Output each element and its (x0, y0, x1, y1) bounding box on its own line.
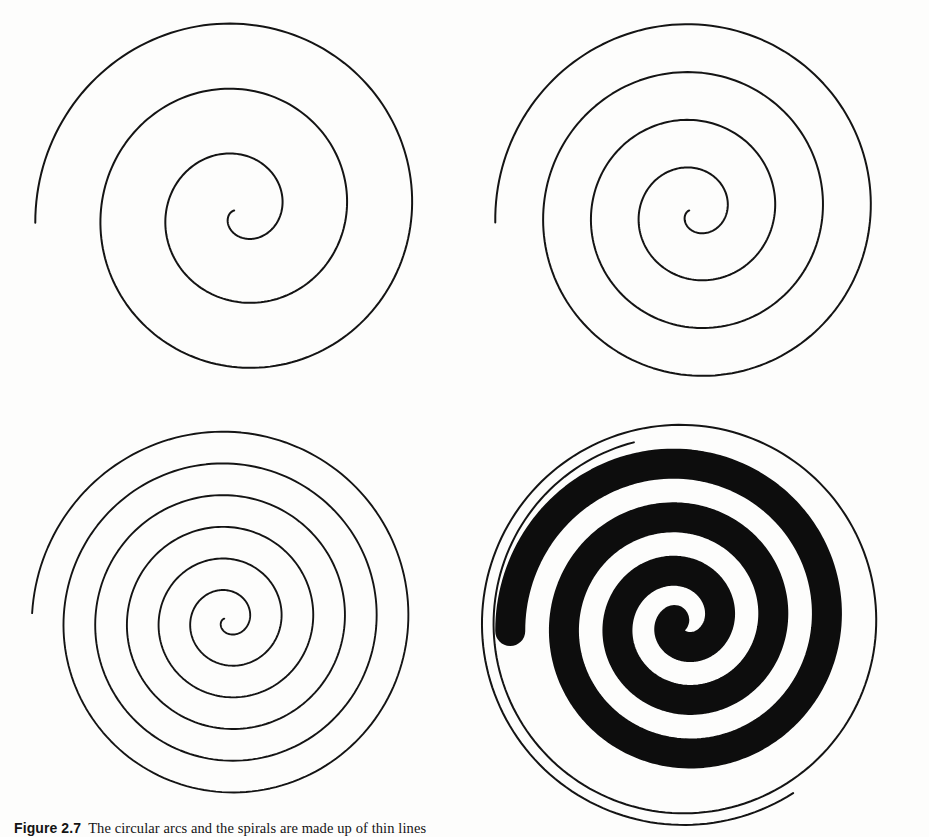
thin-spiral-six-turns-path (32, 432, 408, 793)
thick-filled-spiral-with-outer-arc-svg (460, 420, 929, 820)
thick-filled-spiral-with-outer-arc-path (510, 464, 827, 754)
figure-caption-label: Figure 2.7 (14, 820, 81, 836)
thin-spiral-four-turns-svg (460, 0, 920, 420)
figure-caption: Figure 2.7The circular arcs and the spir… (14, 820, 914, 837)
thin-spiral-four-turns-path (495, 24, 871, 376)
panel-top-right (460, 0, 920, 420)
figure-caption-text: The circular arcs and the spirals are ma… (88, 820, 426, 836)
thin-spiral-six-turns-svg (0, 420, 470, 820)
figure-page: Figure 2.7The circular arcs and the spir… (0, 0, 929, 837)
panel-bottom-right (460, 420, 929, 820)
thin-spiral-three-turns-svg (10, 0, 470, 420)
spiral-figure-grid (0, 0, 929, 812)
panel-bottom-left (0, 420, 470, 820)
panel-top-left (10, 0, 470, 420)
thin-spiral-three-turns-path (35, 24, 412, 368)
